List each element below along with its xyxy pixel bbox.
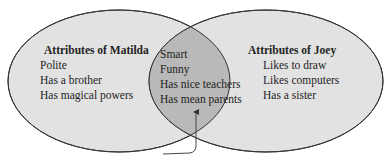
joey-title: Attributes of Joey — [248, 43, 336, 58]
matilda-item: Has a brother — [40, 73, 102, 88]
joey-item: Likes to draw — [263, 58, 326, 73]
overlap-item: Has nice teachers — [160, 77, 240, 92]
joey-item: Has a sister — [263, 88, 316, 103]
joey-item: Likes computers — [263, 73, 339, 88]
overlap-item: Funny — [160, 62, 189, 77]
matilda-item: Polite — [40, 58, 67, 73]
matilda-title: Attributes of Matilda — [44, 43, 149, 58]
matilda-item: Has magical powers — [40, 88, 133, 103]
overlap-item: Smart — [160, 47, 187, 62]
overlap-item: Has mean parents — [160, 92, 242, 107]
